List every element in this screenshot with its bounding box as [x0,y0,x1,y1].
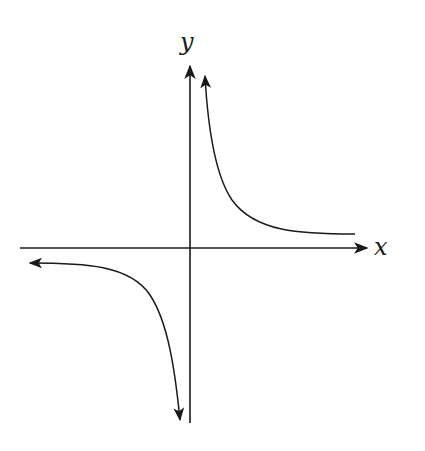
curve-branch-first-quadrant [205,76,355,234]
y-axis-label: y [179,28,194,56]
hyperbola-graph: y x [0,0,425,451]
x-axis-label: x [374,233,388,261]
curve-branch-third-quadrant [30,263,180,420]
